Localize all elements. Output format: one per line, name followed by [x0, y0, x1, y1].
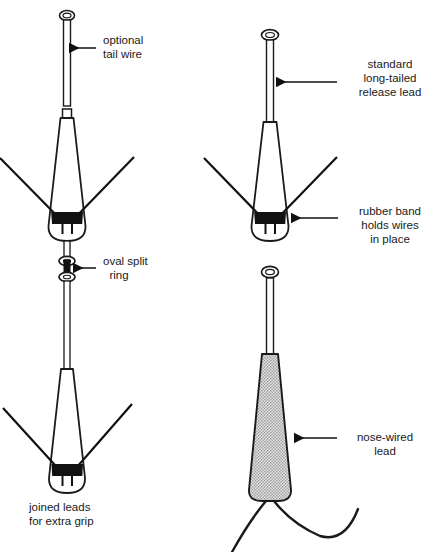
lead-top-stub: [63, 109, 72, 118]
oval-split-ring-part: [59, 256, 75, 281]
left-upper-lead-part: [0, 109, 134, 258]
tail-wire-eye-inner-icon: [63, 13, 71, 18]
label-optional-tail-wire-line2: tail wire: [103, 48, 142, 60]
label-nose-wired-lead-line2: lead: [374, 445, 396, 457]
nose-wired-lead-part: [232, 266, 358, 552]
label-nose-wired-lead-line1: nose-wired: [357, 431, 413, 443]
split-ring-lower-inner-icon: [63, 275, 70, 279]
label-joined-leads-line1: joined leads: [28, 501, 91, 513]
nose-wired-eye-inner-icon: [266, 269, 275, 274]
diagram-canvas: optional tail wire: [0, 0, 441, 552]
optional-tail-wire-part: [60, 11, 75, 107]
tail-wire-shaft: [64, 20, 71, 106]
release-lead-eye-inner-icon: [266, 33, 275, 38]
release-lead-tail-shaft: [267, 40, 274, 122]
nose-wired-tail-shaft: [267, 278, 274, 354]
label-optional-tail-wire-line1: optional: [103, 34, 143, 46]
label-rubber-band-line1: rubber band: [359, 205, 421, 217]
joined-leads-rubber-band: [52, 464, 84, 476]
label-rubber-band-line3: in place: [370, 233, 410, 245]
label-rubber-band-line2: holds wires: [361, 219, 419, 231]
nose-wired-hook-left: [232, 501, 266, 552]
label-oval-split-ring-line2: ring: [109, 269, 128, 281]
label-standard-release-lead-line3: release lead: [359, 86, 422, 98]
tackle-rigging-diagram: optional tail wire: [0, 0, 441, 552]
joined-leads-shaft: [64, 281, 70, 369]
release-lead-rubber-band: [254, 212, 286, 224]
rubber-band: [51, 212, 83, 224]
lower-shaft-upper: [64, 241, 70, 258]
nose-wired-cone-body: [249, 354, 291, 501]
standard-release-lead-part: [204, 30, 337, 241]
joined-leads-part: [3, 281, 132, 493]
label-standard-release-lead-line1: standard: [368, 58, 413, 70]
label-joined-leads-line2: for extra grip: [29, 515, 94, 527]
nose-wired-hook-right: [274, 501, 358, 537]
label-oval-split-ring-line1: oval split: [103, 255, 149, 267]
label-standard-release-lead-line2: long-tailed: [363, 72, 416, 84]
